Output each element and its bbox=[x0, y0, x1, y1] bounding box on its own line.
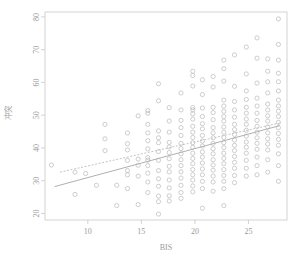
x-axis-title: BIS bbox=[160, 243, 172, 252]
y-tick-label: 40 bbox=[33, 144, 42, 152]
y-tick-label: 60 bbox=[33, 78, 42, 86]
x-tick-label: 20 bbox=[191, 227, 199, 236]
y-axis-title: 冲突 bbox=[3, 105, 13, 120]
x-tick-label: 10 bbox=[84, 227, 92, 236]
y-tick-label: 70 bbox=[33, 46, 42, 54]
x-tick-label: 15 bbox=[137, 227, 145, 236]
y-tick-label: 20 bbox=[33, 209, 42, 217]
y-tick-label: 50 bbox=[33, 111, 42, 119]
scatter-plot-figure: 10152025 20304050607080 BIS 冲突 bbox=[0, 0, 297, 263]
figure-background bbox=[0, 0, 297, 263]
x-tick-label: 25 bbox=[244, 227, 252, 236]
y-tick-label: 30 bbox=[33, 177, 42, 185]
chart-canvas: 10152025 20304050607080 BIS 冲突 bbox=[0, 0, 297, 263]
y-tick-label: 80 bbox=[33, 13, 42, 21]
